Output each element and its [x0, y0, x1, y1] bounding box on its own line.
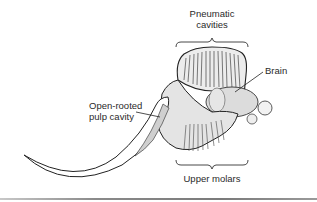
label-brain: Brain: [265, 65, 287, 76]
label-open-rooted-pulp-cavity: Open-rooted pulp cavity: [89, 100, 142, 122]
label-upper-molars: Upper molars: [172, 173, 252, 184]
label-pulp-line2: pulp cavity: [89, 111, 142, 122]
label-pneumatic-line1: Pneumatic: [182, 8, 242, 19]
molars-bracket: [176, 160, 248, 169]
label-pneumatic-cavities: Pneumatic cavities: [182, 8, 242, 30]
bottom-divider: [0, 198, 317, 200]
walrus-skull-illustration: [0, 0, 317, 202]
pneumatic-bracket: [176, 38, 248, 47]
label-pneumatic-line2: cavities: [182, 19, 242, 30]
label-pulp-line1: Open-rooted: [89, 100, 142, 111]
